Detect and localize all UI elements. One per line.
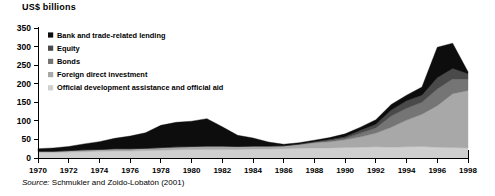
legend-label: Equity: [57, 44, 80, 53]
x-tick-label: 1982: [213, 166, 231, 175]
x-tick-label: 1992: [367, 166, 385, 175]
legend-label: Foreign direct investment: [57, 70, 148, 79]
x-tick-label: 1990: [336, 166, 354, 175]
x-tick-label: 1988: [306, 166, 324, 175]
x-tick-label: 1972: [60, 166, 78, 175]
source-label: Source:: [22, 178, 50, 187]
source-note: Source: Schmukler and Zoido-Lobatón (200…: [22, 178, 184, 187]
legend-swatch: [48, 59, 53, 64]
y-tick-label: 100: [17, 116, 31, 126]
x-tick-label: 1998: [459, 166, 477, 175]
x-tick-label: 1986: [275, 166, 293, 175]
source-citation: Schmukler and Zoido-Lobatón (2001): [50, 178, 185, 187]
x-tick-label: 1984: [244, 166, 262, 175]
y-tick-label: 150: [17, 97, 31, 107]
x-tick-group: 1970197219741976197819801982198419861988…: [29, 158, 477, 175]
x-tick-label: 1976: [121, 166, 139, 175]
y-tick-group: 050100150200250300350: [17, 23, 38, 163]
legend-label: Bank and trade-related lending: [57, 31, 166, 40]
legend-swatch: [48, 72, 53, 77]
y-tick-label: 50: [22, 134, 32, 144]
x-tick-label: 1974: [91, 166, 109, 175]
legend-label: Official development assistance and offi…: [57, 83, 224, 92]
legend-swatch: [48, 85, 53, 90]
y-tick-label: 200: [17, 79, 31, 89]
legend-label: Bonds: [57, 57, 80, 66]
legend-swatch: [48, 32, 53, 37]
y-tick-label: 250: [17, 60, 31, 70]
x-tick-label: 1980: [183, 166, 201, 175]
legend-swatch: [48, 46, 53, 51]
figure-container: US$ billions 050100150200250300350 19701…: [0, 0, 495, 196]
y-tick-label: 0: [26, 153, 31, 163]
y-tick-label: 300: [17, 42, 31, 52]
y-axis-title: US$ billions: [22, 2, 76, 12]
stacked-area-chart: 050100150200250300350 197019721974197619…: [0, 20, 495, 180]
x-tick-label: 1970: [29, 166, 47, 175]
plot-area-wrapper: 050100150200250300350 197019721974197619…: [0, 20, 495, 165]
x-tick-label: 1996: [428, 166, 446, 175]
area-series-group: [38, 43, 468, 158]
x-tick-label: 1978: [152, 166, 170, 175]
legend-group: Bank and trade-related lendingEquityBond…: [48, 31, 224, 93]
y-tick-label: 350: [17, 23, 31, 33]
x-tick-label: 1994: [398, 166, 416, 175]
